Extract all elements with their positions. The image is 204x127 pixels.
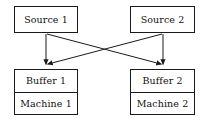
source-1-label: Source 1	[15, 7, 77, 32]
source-2-label: Source 2	[131, 7, 194, 32]
buffer-1-label: Buffer 1	[15, 70, 77, 92]
node-station-1: Buffer 1 Machine 1	[14, 69, 78, 115]
buffer-2-label: Buffer 2	[131, 70, 194, 92]
edge-source2-to-buffer1	[48, 34, 163, 64]
diagram-canvas: Source 1 Source 2 Buffer 1 Machine 1 Buf…	[0, 0, 204, 127]
machine-2-label: Machine 2	[131, 92, 194, 115]
edge-source1-to-buffer2	[47, 34, 162, 64]
machine-1-label: Machine 1	[15, 92, 77, 115]
node-source-1: Source 1	[14, 6, 78, 33]
node-source-2: Source 2	[130, 6, 195, 33]
node-station-2: Buffer 2 Machine 2	[130, 69, 195, 115]
